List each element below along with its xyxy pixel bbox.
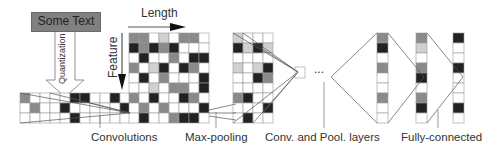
pool-line bbox=[209, 104, 236, 110]
feature-grid-cell bbox=[129, 33, 139, 43]
input-grid-cell bbox=[40, 113, 50, 123]
input-grid-cell bbox=[30, 93, 40, 103]
feature-grid-cell bbox=[149, 113, 159, 123]
label-fully-connected: Fully-connected bbox=[401, 131, 482, 143]
fan-line bbox=[331, 33, 377, 77]
feature-grid-cell bbox=[159, 43, 169, 53]
pooled-grid-cell bbox=[243, 83, 253, 93]
kernel-box bbox=[295, 67, 305, 78]
quantization-label: Quantization bbox=[57, 33, 67, 84]
column-b-cell bbox=[416, 33, 427, 43]
pool-line bbox=[209, 116, 236, 120]
length-arrow-icon bbox=[170, 23, 186, 31]
feature-grid-cell bbox=[179, 83, 189, 93]
feature-grid-cell bbox=[149, 93, 159, 103]
input-grid-cell bbox=[70, 93, 80, 103]
pooled-grid-cell bbox=[253, 93, 263, 103]
input-grid-cell bbox=[90, 113, 100, 123]
cnn-diagram: Some Text Quantization Length Feature ..… bbox=[0, 0, 488, 155]
column-c-cell bbox=[453, 113, 464, 123]
pooled-grid-cell bbox=[253, 83, 263, 93]
input-grid-cell bbox=[50, 113, 60, 123]
column-b-cell bbox=[416, 43, 427, 53]
feature-grid-cell bbox=[149, 103, 159, 113]
feature-grid-cell bbox=[199, 43, 209, 53]
feature-grid-cell bbox=[129, 93, 139, 103]
pooled-grid-cell bbox=[243, 53, 253, 63]
column-b-cell bbox=[416, 53, 427, 63]
pooled-grid-cell bbox=[263, 33, 273, 43]
feature-grid-cell bbox=[159, 73, 169, 83]
feature-grid-cell bbox=[149, 73, 159, 83]
input-grid-cell bbox=[80, 113, 90, 123]
column-b-cell bbox=[416, 73, 427, 83]
feature-grid-cell bbox=[189, 63, 199, 73]
input-grid-cell bbox=[50, 103, 60, 113]
feature-grid-cell bbox=[179, 63, 189, 73]
column-b-cell bbox=[416, 63, 427, 73]
pooled-grid-cell bbox=[243, 93, 253, 103]
feature-grid-cell bbox=[179, 43, 189, 53]
feature-grid-cell bbox=[169, 113, 179, 123]
pooled-grid-cell bbox=[233, 43, 243, 53]
column-a-cell bbox=[377, 43, 388, 53]
length-axis-label: Length bbox=[141, 6, 178, 20]
feature-grid-cell bbox=[139, 113, 149, 123]
feature-grid-cell bbox=[159, 103, 169, 113]
feature-grid-cell bbox=[139, 53, 149, 63]
feature-grid-cell bbox=[129, 73, 139, 83]
feature-grid-cell bbox=[139, 73, 149, 83]
input-grid-cell bbox=[120, 113, 130, 123]
feature-grid-cell bbox=[149, 53, 159, 63]
feature-grid-cell bbox=[179, 103, 189, 113]
column-b-cell bbox=[416, 93, 427, 103]
feature-grid-cell bbox=[199, 53, 209, 63]
feature-grid-cell bbox=[169, 33, 179, 43]
feature-grid-cell bbox=[199, 113, 209, 123]
feature-grid-cell bbox=[159, 33, 169, 43]
pooled-grid-cell bbox=[243, 73, 253, 83]
pooled-grid-cell bbox=[253, 73, 263, 83]
feature-grid-cell bbox=[139, 103, 149, 113]
input-text-box: Some Text bbox=[31, 12, 101, 32]
feature-grid-cell bbox=[189, 103, 199, 113]
feature-grid-cell bbox=[189, 83, 199, 93]
feature-grid-cell bbox=[139, 63, 149, 73]
input-grid-cell bbox=[120, 93, 130, 103]
column-b-cell bbox=[416, 103, 427, 113]
feature-grid-cell bbox=[139, 33, 149, 43]
feature-grid-cell bbox=[199, 103, 209, 113]
ellipsis-label: ... bbox=[314, 62, 324, 76]
feature-grid-cell bbox=[189, 33, 199, 43]
pooled-grid-cell bbox=[233, 93, 243, 103]
feature-grid-cell bbox=[159, 53, 169, 63]
feature-grid-cell bbox=[169, 73, 179, 83]
feature-grid-cell bbox=[169, 63, 179, 73]
input-grid-cell bbox=[110, 103, 120, 113]
feature-grid-cell bbox=[199, 33, 209, 43]
pooled-grid-cell bbox=[253, 103, 263, 113]
feature-grid-cell bbox=[179, 93, 189, 103]
pooled-grid-cell bbox=[253, 63, 263, 73]
column-b-cell bbox=[416, 83, 427, 93]
feature-grid-cell bbox=[169, 43, 179, 53]
feature-grid-cell bbox=[169, 103, 179, 113]
feature-grid-cell bbox=[159, 83, 169, 93]
pooled-grid-cell bbox=[233, 83, 243, 93]
feature-grid-cell bbox=[189, 93, 199, 103]
pooled-grid-cell bbox=[233, 63, 243, 73]
pooled-grid-cell bbox=[233, 73, 243, 83]
feature-grid-cell bbox=[199, 93, 209, 103]
feature-grid-cell bbox=[179, 73, 189, 83]
column-c-cell bbox=[453, 53, 464, 63]
feature-grid-cell bbox=[129, 103, 139, 113]
feature-grid-cell bbox=[159, 113, 169, 123]
pooled-grid-cell bbox=[263, 63, 273, 73]
column-c-cell bbox=[453, 93, 464, 103]
feature-grid-cell bbox=[189, 43, 199, 53]
feature-grid-cell bbox=[139, 43, 149, 53]
column-a-cell bbox=[377, 33, 388, 43]
input-grid-cell bbox=[90, 93, 100, 103]
input-grid-cell bbox=[70, 103, 80, 113]
input-grid-cell bbox=[30, 103, 40, 113]
